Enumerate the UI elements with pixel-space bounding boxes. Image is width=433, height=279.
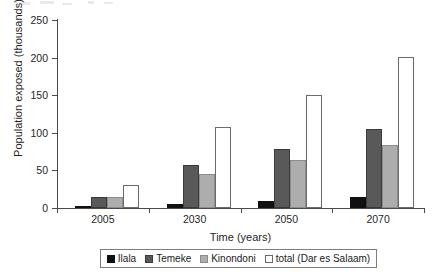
x-tick-label-2050: 2050 [256, 214, 316, 225]
legend-swatch-temeke-icon [145, 255, 153, 263]
x-tick-label-2070: 2070 [348, 214, 408, 225]
legend-item-ilala[interactable]: Ilala [107, 254, 136, 264]
x-tick-boundary-1 [149, 208, 150, 213]
legend-swatch-ilala-icon [107, 255, 115, 263]
legend-label-ilala: Ilala [118, 254, 136, 264]
bar-temeke-2050 [274, 149, 290, 208]
bar-total-2005 [123, 185, 139, 208]
bar-ilala-2050 [258, 201, 274, 208]
y-tick-label-50: 50 [18, 165, 48, 176]
bar-total-2050 [306, 95, 322, 208]
x-tick-boundary-4 [424, 208, 425, 213]
legend-label-total: total (Dar es Salaam) [276, 254, 370, 264]
legend-item-temeke[interactable]: Temeke [145, 254, 191, 264]
bar-temeke-2005 [91, 197, 107, 208]
y-tick-label-250: 250 [18, 15, 48, 26]
y-tick-label-100: 100 [18, 128, 48, 139]
legend-swatch-kinondoni-icon [200, 255, 208, 263]
x-tick-label-2030: 2030 [165, 214, 225, 225]
legend-swatch-total-icon [265, 255, 273, 263]
legend-item-kinondoni[interactable]: Kinondoni [200, 254, 255, 264]
x-tick-boundary-2 [241, 208, 242, 213]
x-tick-boundary-3 [332, 208, 333, 213]
legend-item-total[interactable]: total (Dar es Salaam) [265, 254, 370, 264]
x-axis-label: Time (years) [57, 231, 424, 243]
scan-artifact [62, 3, 72, 5]
bar-total-2070 [398, 57, 414, 208]
x-tick-boundary-0 [57, 208, 58, 213]
bar-kinondoni-2030 [199, 174, 215, 208]
bar-ilala-2030 [167, 204, 183, 209]
bar-kinondoni-2070 [382, 145, 398, 208]
bar-chart-figure: Population exposed (thousands) 050100150… [0, 0, 433, 279]
bar-ilala-2070 [350, 197, 366, 208]
y-tick-label-200: 200 [18, 53, 48, 64]
legend-label-kinondoni: Kinondoni [211, 254, 255, 264]
bar-temeke-2030 [183, 165, 199, 208]
scan-artifact [104, 2, 113, 4]
y-tick-label-0: 0 [18, 203, 48, 214]
bar-total-2030 [215, 127, 231, 208]
legend-label-temeke: Temeke [156, 254, 191, 264]
bar-kinondoni-2005 [107, 197, 123, 208]
bar-kinondoni-2050 [290, 160, 306, 208]
scan-artifact [88, 1, 94, 4]
x-tick-label-2005: 2005 [73, 214, 133, 225]
chart-legend: IlalaTemekeKinondonitotal (Dar es Salaam… [100, 249, 377, 268]
bar-ilala-2005 [75, 206, 91, 208]
scan-artifact [40, 1, 54, 4]
plot-area [57, 20, 424, 208]
y-tick-label-150: 150 [18, 90, 48, 101]
bar-temeke-2070 [366, 129, 382, 208]
